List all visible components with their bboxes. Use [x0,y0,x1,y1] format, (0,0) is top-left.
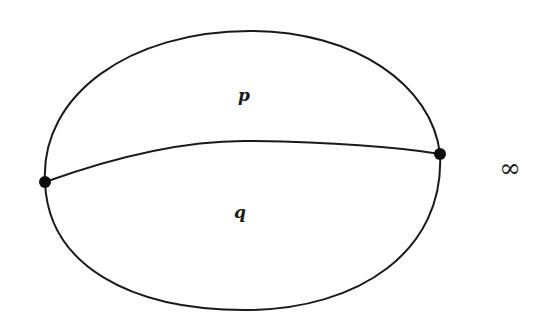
lower-arc-edge [45,154,440,310]
outer-face-infinity-label: ∞ [499,153,521,183]
face-label-q: q [234,202,246,222]
upper-arc-edge [45,31,440,182]
middle-arc-edge [45,141,440,182]
left-vertex [39,176,51,188]
theta-graph-diagram: p q ∞ [0,0,557,315]
face-label-p: p [238,85,250,105]
right-vertex [434,148,446,160]
